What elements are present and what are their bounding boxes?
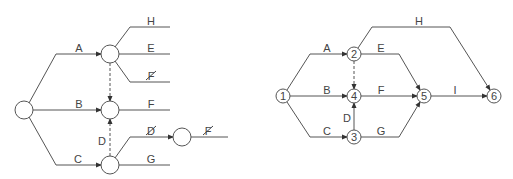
edge-g <box>361 102 420 137</box>
label-d-struck-group: D <box>146 125 156 137</box>
label-a: A <box>75 42 83 54</box>
right-network-diagram: 1 2 3 4 5 6 A B C D E F G H I <box>276 15 501 144</box>
label-i: I <box>453 84 456 96</box>
start-node <box>15 101 33 119</box>
label-f-struck-group: F <box>146 70 156 82</box>
edge-h <box>358 27 490 90</box>
node-extra <box>173 128 191 146</box>
svg-text:6: 6 <box>491 90 497 102</box>
svg-text:5: 5 <box>421 90 427 102</box>
svg-text:3: 3 <box>351 131 357 143</box>
label-d: D <box>343 112 351 124</box>
label-g: G <box>377 125 386 137</box>
node-mid <box>101 101 119 119</box>
label-b: B <box>323 84 330 96</box>
label-f: F <box>378 84 385 96</box>
edge-c <box>29 117 101 165</box>
network-diagrams: A B C D H E F F D F G <box>0 0 513 179</box>
label-a: A <box>323 42 331 54</box>
label-g: G <box>147 153 156 165</box>
node-6: 6 <box>487 89 501 103</box>
node-2: 2 <box>347 47 361 61</box>
label-e: E <box>147 42 154 54</box>
edge-e <box>361 54 420 90</box>
svg-text:1: 1 <box>280 90 286 102</box>
label-f: F <box>148 98 155 110</box>
svg-text:4: 4 <box>351 90 357 102</box>
label-f-struck-2-group: F <box>203 125 213 137</box>
label-c: C <box>74 153 82 165</box>
edge-d-struck <box>115 137 173 158</box>
edge-f-struck <box>115 61 170 82</box>
label-h: H <box>415 15 423 27</box>
edge-a <box>287 54 347 90</box>
edge-c <box>287 102 347 137</box>
label-h: H <box>147 15 155 27</box>
node-bottom <box>101 156 119 174</box>
label-d: D <box>98 135 106 147</box>
node-1: 1 <box>276 89 290 103</box>
label-b: B <box>75 98 82 110</box>
label-c: C <box>323 125 331 137</box>
node-5: 5 <box>417 89 431 103</box>
node-3: 3 <box>347 130 361 144</box>
edge-h <box>115 27 170 47</box>
edge-a <box>29 54 101 103</box>
node-top <box>101 45 119 63</box>
node-4: 4 <box>347 89 361 103</box>
left-activity-diagram: A B C D H E F F D F G <box>15 15 228 174</box>
svg-text:2: 2 <box>351 48 357 60</box>
label-e: E <box>377 42 384 54</box>
